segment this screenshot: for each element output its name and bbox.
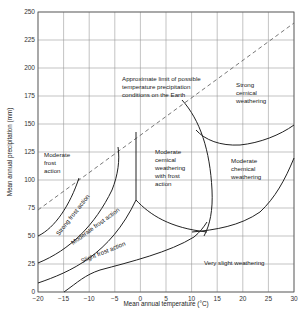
label-slight-frost: Slight frost action [80,239,127,263]
chart: −20−15−10−5051015202530 0255075100125150… [0,0,307,317]
label-mod-cem-frost: Moderate cemical weathering with frost a… [154,148,187,187]
y-tick-label: 150 [24,120,35,127]
y-tick-label: 250 [24,8,35,15]
label-mod-chem: Moderate chemical weathering [230,157,262,180]
label-strong-cem: Strong cemical weathering [235,81,267,104]
region-labels: Approximate limit of possible temperatur… [44,75,267,266]
label-very-slight: Very slight weathering [204,259,265,266]
x-tick-label: 20 [239,295,247,302]
y-tick-label: 50 [28,232,36,239]
y-tick-label: 75 [28,204,36,211]
y-tick-label: 0 [31,288,35,295]
y-tick-label: 200 [24,64,35,71]
label-moderate-frost-top: Moderate frost action [44,151,72,174]
y-tick-label: 125 [24,148,35,155]
y-tick-label: 25 [28,260,36,267]
x-tick-label: −10 [84,295,95,302]
y-tick-label: 100 [24,176,35,183]
x-tick-label: 25 [265,295,273,302]
x-tick-label: 15 [214,295,222,302]
curve-strong-chem-lower [196,125,294,145]
x-axis-label: Mean annual temperature (°C) [123,300,208,308]
x-tick-label: −15 [58,295,69,302]
x-tick-label: −5 [111,295,119,302]
curve-chem-frost-lower [136,200,207,232]
y-axis-ticks: 0255075100125150175200225250 [24,8,35,295]
y-tick-label: 225 [24,36,35,43]
x-tick-label: −20 [32,295,43,302]
label-limit-line: Approximate limit of possible temperatur… [122,75,203,98]
y-tick-label: 175 [24,92,35,99]
y-axis-label: Mean annual precipitation (mm) [6,108,14,197]
x-tick-label: 30 [290,295,298,302]
